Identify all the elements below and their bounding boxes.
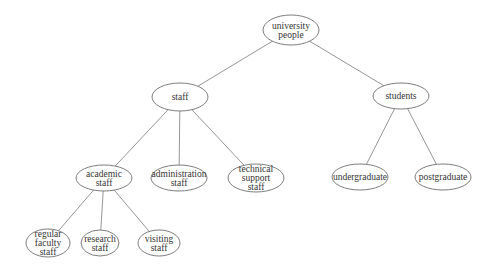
node-staff: staff <box>152 83 208 111</box>
node-label: people <box>278 30 303 40</box>
node-label: staff <box>40 247 58 257</box>
node-label: staff <box>96 178 114 188</box>
node-undergraduate: undergraduate <box>332 164 388 190</box>
edge-academic-visiting <box>114 190 149 231</box>
edge-academic-research <box>101 191 103 230</box>
node-students: students <box>373 83 429 109</box>
edge-students-postgraduate <box>408 109 437 165</box>
edge-students-undergraduate <box>366 109 394 165</box>
node-visiting: visitingstaff <box>138 230 180 256</box>
tree-diagram: universitypeoplestaffstudentsacademicsta… <box>0 0 493 269</box>
edge-root-staff <box>198 41 273 86</box>
node-label: staff <box>171 178 189 188</box>
node-regular: regularfacultystaff <box>26 229 70 257</box>
node-label: staff <box>248 182 266 192</box>
edge-academic-regular <box>59 190 94 231</box>
nodes-layer: universitypeoplestaffstudentsacademicsta… <box>26 15 471 257</box>
edge-staff-academic <box>115 110 168 166</box>
node-label: staff <box>92 243 110 253</box>
node-administration: administrationstaff <box>151 165 207 191</box>
node-root: universitypeople <box>263 15 319 45</box>
node-label: staff <box>151 243 169 253</box>
edge-root-students <box>310 41 384 86</box>
node-label: staff <box>172 92 190 102</box>
edges-layer <box>59 41 437 231</box>
node-postgraduate: postgraduate <box>415 164 471 190</box>
edge-staff-administration <box>179 111 180 165</box>
node-academic: academicstaff <box>76 165 132 191</box>
node-label: postgraduate <box>419 172 468 182</box>
node-technical: technicalsupportstaff <box>228 164 284 192</box>
edge-staff-technical <box>192 110 244 166</box>
node-label: students <box>385 91 416 101</box>
node-label: undergraduate <box>333 172 387 182</box>
node-research: researchstaff <box>81 230 119 256</box>
